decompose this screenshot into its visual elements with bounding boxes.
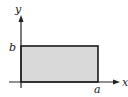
x-tick-label-a: a [94, 83, 101, 96]
y-axis-label: y [14, 3, 22, 16]
rectangle-region [21, 46, 98, 82]
y-tick-label-b: b [9, 41, 16, 54]
x-axis-arrow-icon [113, 80, 120, 85]
x-axis-label: x [122, 76, 128, 89]
y-axis-arrow-icon [19, 15, 24, 22]
diagram-canvas: y x b a [0, 0, 128, 97]
